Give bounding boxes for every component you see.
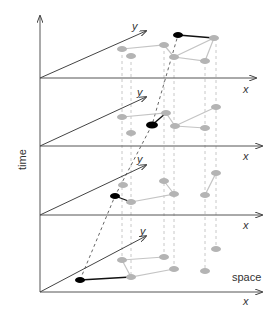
- x-label-2: x: [242, 150, 249, 162]
- layer-3-graph: [110, 170, 221, 205]
- x-axes: [40, 78, 262, 292]
- y-label-4: y: [139, 225, 147, 237]
- trajectory-line: [80, 35, 178, 280]
- x-label-3: x: [242, 219, 249, 231]
- x-label-1: x: [242, 83, 249, 95]
- space-time-diagram: y y y y x x x x space time: [0, 0, 276, 315]
- layer-4-graph: [75, 246, 221, 283]
- y-axes: [40, 31, 146, 292]
- y-label-1: y: [131, 20, 139, 32]
- time-axis-label: time: [16, 149, 28, 170]
- y-label-3: y: [136, 153, 144, 165]
- tracked-node: [173, 32, 183, 38]
- x-label-4: x: [242, 295, 249, 307]
- tracked-node: [146, 122, 158, 129]
- y-label-2: y: [136, 86, 144, 98]
- tracked-node: [75, 277, 85, 283]
- tracked-node: [110, 193, 120, 199]
- layer-2-graph: [117, 104, 221, 136]
- space-label: space: [232, 271, 261, 283]
